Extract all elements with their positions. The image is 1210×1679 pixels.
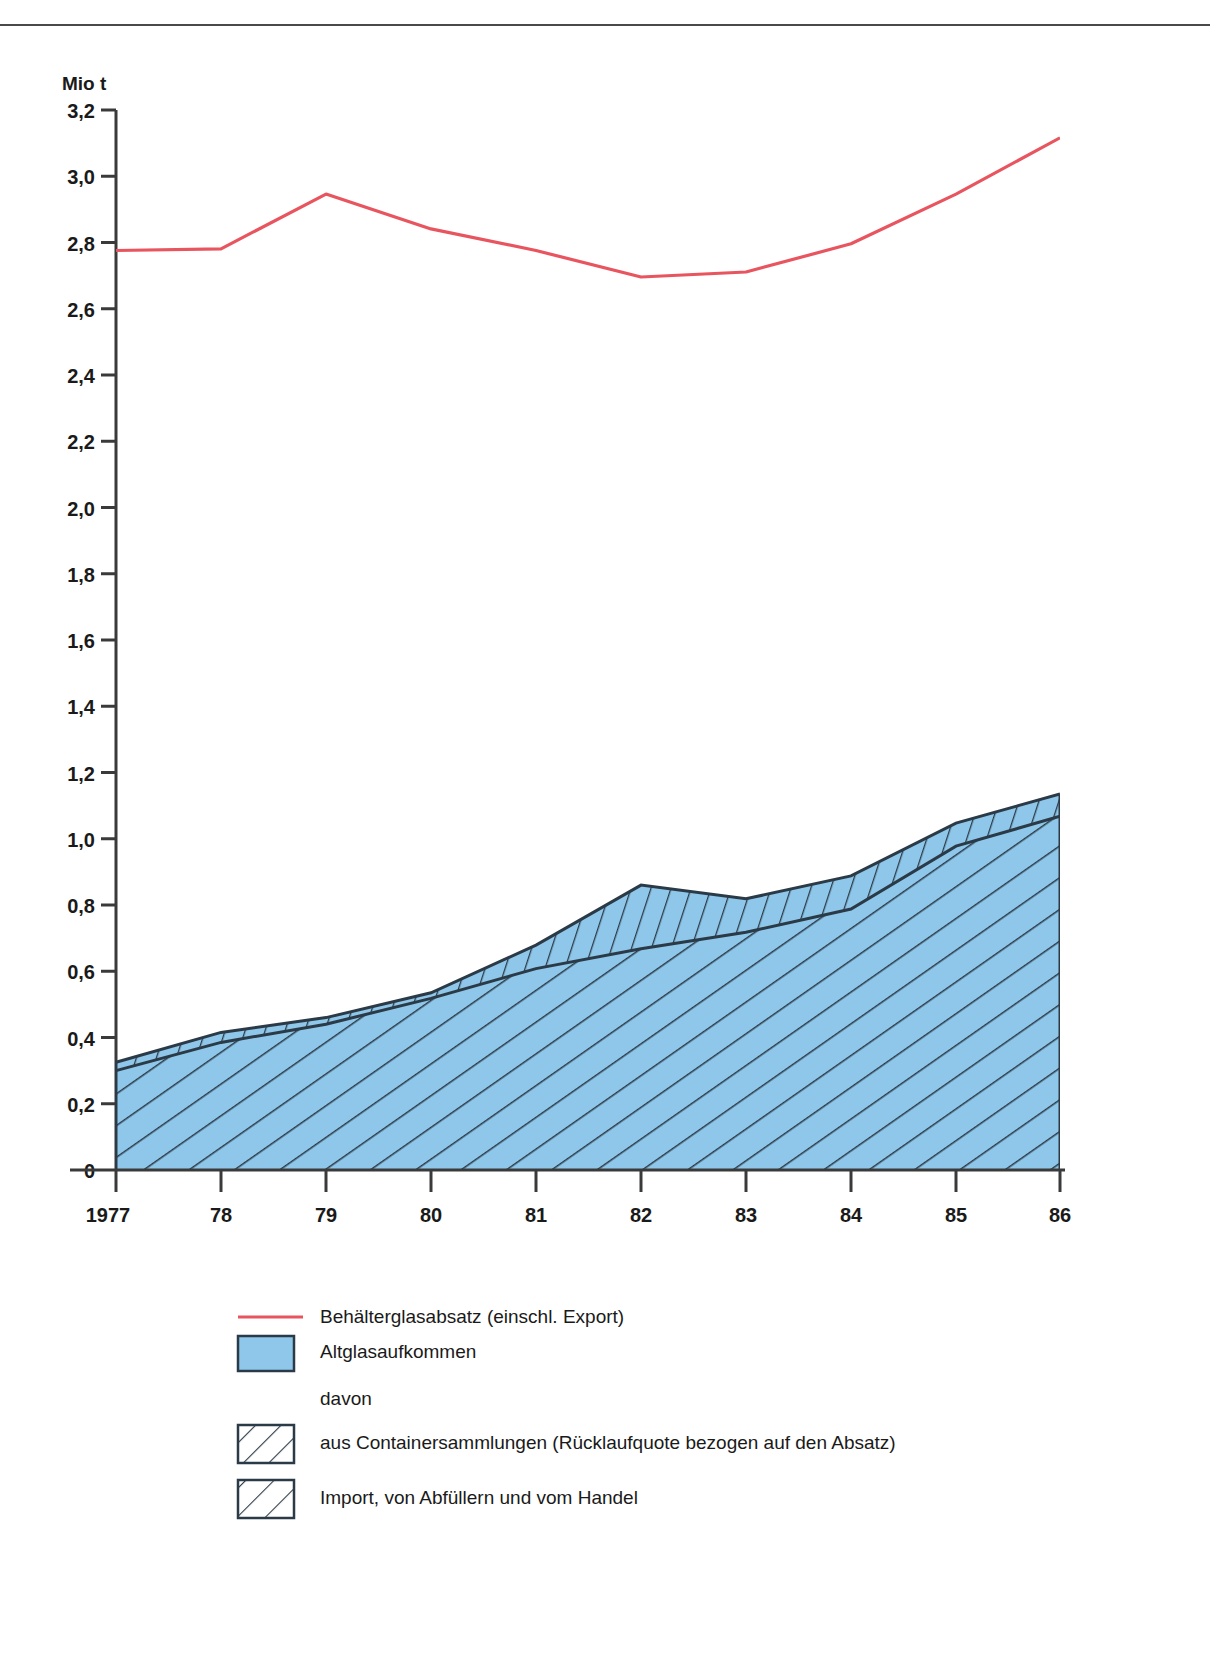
- x-axis: 1977 78 79 80 81 82 83 84 85 86: [70, 1170, 1071, 1226]
- y-axis-unit-label: Mio t: [62, 73, 107, 94]
- y-tick-label: 0,8: [67, 895, 95, 917]
- x-axis-ticks: [116, 1170, 1060, 1192]
- chart-page: Mio t 3,2 3,0 2,8 2,6 2,4 2,2 2,0 1,8 1,…: [0, 0, 1210, 1679]
- y-tick-label: 1,6: [67, 630, 95, 652]
- y-tick-label: 1,2: [67, 763, 95, 785]
- legend-swatch-container-hatch: [238, 1425, 294, 1463]
- y-tick-label: 0,6: [67, 961, 95, 983]
- x-tick-label: 79: [315, 1204, 337, 1226]
- legend-item-absatz[interactable]: Behälterglasabsatz (einschl. Export): [238, 1306, 624, 1327]
- legend-label-container: aus Containersammlungen (Rücklaufquote b…: [320, 1432, 896, 1453]
- legend-label-absatz: Behälterglasabsatz (einschl. Export): [320, 1306, 624, 1327]
- legend-item-container[interactable]: aus Containersammlungen (Rücklaufquote b…: [238, 1425, 896, 1463]
- y-axis-ticks: [101, 110, 116, 1104]
- legend-item-davon: davon: [320, 1388, 372, 1409]
- x-tick-label: 86: [1049, 1204, 1071, 1226]
- legend-label-davon: davon: [320, 1388, 372, 1409]
- line-series-absatz: [116, 138, 1060, 277]
- x-tick-label: 85: [945, 1204, 967, 1226]
- legend-item-altglas[interactable]: Altglasaufkommen: [238, 1336, 476, 1371]
- y-tick-label: 1,4: [67, 696, 96, 718]
- x-tick-label: 82: [630, 1204, 652, 1226]
- legend-label-altglas: Altglasaufkommen: [320, 1341, 476, 1362]
- y-tick-label: 0,2: [67, 1094, 95, 1116]
- y-tick-label: 1,8: [67, 564, 95, 586]
- chart-legend: Behälterglasabsatz (einschl. Export) Alt…: [238, 1306, 896, 1518]
- chart-canvas: Mio t 3,2 3,0 2,8 2,6 2,4 2,2 2,0 1,8 1,…: [0, 0, 1210, 1679]
- legend-swatch-altglas: [238, 1336, 294, 1371]
- y-tick-label: 3,2: [67, 100, 95, 122]
- y-axis: Mio t 3,2 3,0 2,8 2,6 2,4 2,2 2,0 1,8 1,…: [62, 73, 116, 1182]
- y-tick-label: 2,2: [67, 431, 95, 453]
- x-tick-label: 84: [840, 1204, 863, 1226]
- legend-item-import[interactable]: Import, von Abfüllern und vom Handel: [238, 1480, 638, 1518]
- x-tick-label: 81: [525, 1204, 547, 1226]
- area-stack: [116, 794, 1060, 1170]
- legend-label-import: Import, von Abfüllern und vom Handel: [320, 1487, 638, 1508]
- y-tick-label: 2,4: [67, 365, 96, 387]
- x-tick-label: 1977: [86, 1204, 131, 1226]
- x-tick-label: 83: [735, 1204, 757, 1226]
- x-tick-label: 78: [210, 1204, 232, 1226]
- x-tick-label: 80: [420, 1204, 442, 1226]
- y-tick-label: 1,0: [67, 829, 95, 851]
- y-tick-label: 2,0: [67, 498, 95, 520]
- y-tick-label: 2,8: [67, 233, 95, 255]
- behaelterglasabsatz-line: [116, 138, 1060, 277]
- y-tick-label: 0,4: [67, 1028, 96, 1050]
- y-tick-label: 3,0: [67, 166, 95, 188]
- legend-swatch-import-hatch: [238, 1480, 294, 1518]
- y-tick-label: 2,6: [67, 299, 95, 321]
